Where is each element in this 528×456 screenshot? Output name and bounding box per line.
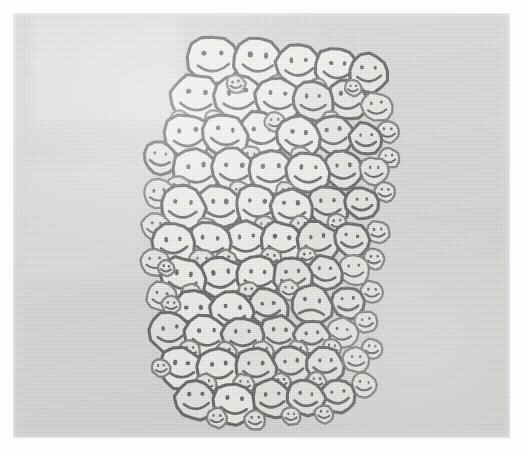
smiley-face <box>281 407 300 425</box>
face-outline <box>207 407 228 428</box>
smiley-face <box>207 407 228 428</box>
scanned-paper-page <box>13 13 510 438</box>
screenshot-root <box>0 0 528 456</box>
smiley-face <box>314 405 334 424</box>
face-outline <box>345 80 362 97</box>
smiley-face-crowd-drawing <box>13 13 510 438</box>
faces-canvas <box>13 13 510 438</box>
smiley-face <box>342 347 369 373</box>
face-outline <box>339 255 370 286</box>
face-outline <box>314 405 334 424</box>
face-outline <box>342 347 369 373</box>
face-outline <box>281 407 300 425</box>
smiley-face <box>360 91 393 121</box>
face-outline <box>360 91 393 121</box>
smiley-face <box>339 255 370 286</box>
smiley-face <box>345 80 362 97</box>
